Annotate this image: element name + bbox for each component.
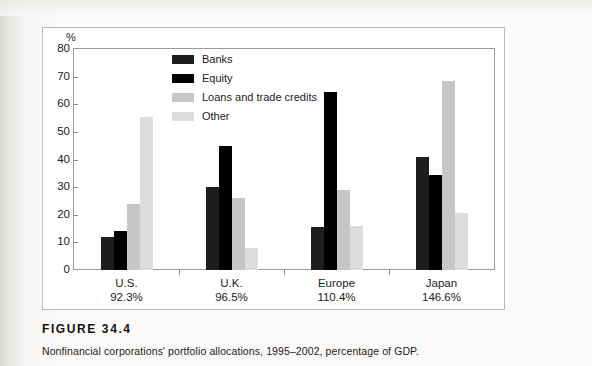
x-axis-tick-mark xyxy=(284,270,285,275)
bar xyxy=(206,187,219,270)
legend-color-swatch xyxy=(172,55,194,64)
bar-group xyxy=(101,49,153,270)
x-axis-group-name: U.K. xyxy=(220,277,242,289)
legend-item: Loans and trade credits xyxy=(172,89,362,105)
legend-item: Other xyxy=(172,108,362,124)
x-axis-group-label: U.S.92.3% xyxy=(77,276,177,304)
bar xyxy=(127,204,140,270)
bar xyxy=(232,198,245,270)
y-axis-tick-label: 60 xyxy=(44,99,70,111)
chart-legend: BanksEquityLoans and trade creditsOther xyxy=(172,51,362,127)
bar xyxy=(429,175,442,270)
y-axis-tick-label: 40 xyxy=(44,154,70,166)
y-axis-tick-label: 70 xyxy=(44,71,70,83)
x-axis-group-percent: 146.6% xyxy=(392,290,492,304)
bar xyxy=(442,81,455,270)
x-axis-group-name: Europe xyxy=(318,277,355,289)
x-axis-tick-mark xyxy=(179,270,180,275)
y-axis-tick-label: 50 xyxy=(44,126,70,138)
figure-number: FIGURE 34.4 xyxy=(42,322,562,336)
x-axis-group-name: U.S. xyxy=(115,277,137,289)
y-axis-tick-mark xyxy=(73,104,78,105)
bar xyxy=(245,248,258,270)
legend-item: Equity xyxy=(172,70,362,86)
legend-item-label: Banks xyxy=(202,53,233,65)
x-axis-group-label: Japan146.6% xyxy=(392,276,492,304)
bar xyxy=(337,190,350,270)
y-axis-tick-label: 0 xyxy=(44,264,70,276)
legend-color-swatch xyxy=(172,93,194,102)
legend-item-label: Other xyxy=(202,110,230,122)
x-axis-group-percent: 110.4% xyxy=(287,290,387,304)
y-axis-tick-label: 30 xyxy=(44,181,70,193)
legend-color-swatch xyxy=(172,74,194,83)
x-axis-group-percent: 92.3% xyxy=(77,290,177,304)
bar xyxy=(350,226,363,270)
chart-plot-area: % 01020304050607080 U.S.92.3%U.K.96.5%Eu… xyxy=(42,27,505,310)
scan-edge-band xyxy=(0,0,592,16)
y-axis-tick-mark xyxy=(73,187,78,188)
bar xyxy=(101,237,114,270)
legend-item: Banks xyxy=(172,51,362,67)
bar xyxy=(219,146,232,270)
figure-caption-block: FIGURE 34.4 Nonfinancial corporations' p… xyxy=(42,322,562,357)
x-axis-group-label: U.K.96.5% xyxy=(182,276,282,304)
legend-color-swatch xyxy=(172,112,194,121)
y-axis-tick-label: 20 xyxy=(44,209,70,221)
legend-item-label: Loans and trade credits xyxy=(202,91,317,103)
y-axis-tick-mark xyxy=(73,77,78,78)
y-axis-tick-labels: 01020304050607080 xyxy=(42,27,70,310)
bar xyxy=(114,231,127,270)
legend-item-label: Equity xyxy=(202,72,233,84)
y-axis-tick-label: 10 xyxy=(44,237,70,249)
y-axis-tick-mark xyxy=(73,215,78,216)
x-axis-group-percent: 96.5% xyxy=(182,290,282,304)
y-axis-tick-mark xyxy=(73,160,78,161)
bar xyxy=(455,213,468,270)
y-axis-tick-label: 80 xyxy=(44,43,70,55)
x-axis-group-label: Europe110.4% xyxy=(287,276,387,304)
y-axis-tick-mark xyxy=(73,132,78,133)
bar xyxy=(140,117,153,270)
figure-caption-text: Nonfinancial corporations' portfolio all… xyxy=(42,345,562,357)
y-axis-tick-mark xyxy=(73,242,78,243)
bar-group xyxy=(416,49,468,270)
bar xyxy=(416,157,429,270)
bar xyxy=(311,227,324,270)
x-axis-tick-mark xyxy=(389,270,390,275)
x-axis-group-name: Japan xyxy=(426,277,457,289)
